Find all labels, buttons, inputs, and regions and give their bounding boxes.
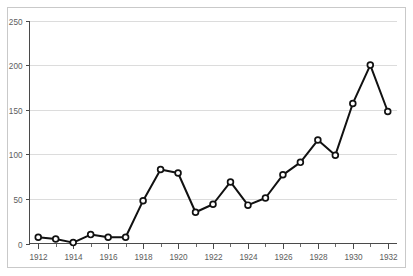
x-tick-label-1924: 1924: [239, 253, 258, 262]
data-point-1917: [123, 234, 129, 240]
data-point-1930: [350, 101, 356, 107]
data-point-1921: [193, 209, 199, 215]
chart-svg: 1912191419161918192019221924192619281930…: [0, 0, 413, 276]
x-tick-label-1916: 1916: [99, 253, 118, 262]
y-axis-tick-labels: 050100150200250: [9, 18, 23, 250]
x-tick-label-1930: 1930: [344, 253, 363, 262]
y-tick-label-150: 150: [9, 107, 23, 116]
data-point-1932: [385, 109, 391, 115]
data-point-1916: [105, 234, 111, 240]
line-chart: 1912191419161918192019221924192619281930…: [0, 0, 413, 276]
x-axis-tick-labels: 1912191419161918192019221924192619281930…: [29, 253, 398, 262]
data-point-1926: [280, 172, 286, 178]
x-tick-label-1918: 1918: [134, 253, 153, 262]
x-axis-ticks: [39, 244, 389, 249]
data-point-1915: [88, 232, 94, 238]
data-point-1922: [210, 201, 216, 207]
data-point-1925: [263, 195, 269, 201]
data-point-1923: [228, 179, 234, 185]
y-tick-label-50: 50: [13, 196, 23, 205]
data-point-1929: [332, 152, 338, 158]
data-point-1913: [53, 236, 59, 242]
x-tick-label-1926: 1926: [274, 253, 293, 262]
gridlines: [30, 22, 397, 200]
x-tick-label-1914: 1914: [64, 253, 83, 262]
data-point-1919: [158, 167, 164, 173]
data-point-1928: [315, 137, 321, 143]
y-tick-label-200: 200: [9, 62, 23, 71]
data-point-1931: [367, 62, 373, 68]
data-markers: [35, 62, 390, 245]
x-tick-label-1920: 1920: [169, 253, 188, 262]
y-tick-label-100: 100: [9, 151, 23, 160]
x-tick-label-1932: 1932: [379, 253, 398, 262]
x-tick-label-1922: 1922: [204, 253, 223, 262]
x-tick-label-1928: 1928: [309, 253, 328, 262]
data-point-1914: [70, 240, 76, 246]
axes: [30, 21, 397, 244]
data-point-1924: [245, 202, 251, 208]
data-point-1927: [297, 159, 303, 165]
y-tick-label-250: 250: [9, 18, 23, 27]
y-tick-label-0: 0: [18, 241, 23, 250]
x-tick-label-1912: 1912: [29, 253, 48, 262]
y-axis-ticks: [26, 22, 30, 245]
data-point-1912: [35, 234, 41, 240]
data-point-1920: [175, 170, 181, 176]
chart-page: 1912191419161918192019221924192619281930…: [0, 0, 413, 276]
data-point-1918: [140, 198, 146, 204]
